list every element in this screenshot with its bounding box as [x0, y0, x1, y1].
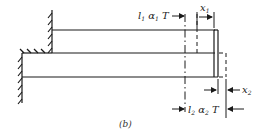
- upper-elongation-label: l1 α1 T: [138, 10, 170, 22]
- x2-label: x2: [242, 84, 252, 96]
- x1-dimension: [197, 12, 214, 28]
- lower-elongation-label: l2 α2 T: [188, 104, 220, 116]
- upper-wall-support: [48, 10, 52, 53]
- lower-free-extension-bracket: [219, 53, 226, 77]
- x1-label: x1: [200, 2, 209, 14]
- upper-bar: [52, 30, 215, 53]
- thermal-bars-diagram: l1 α1 T x1 x2 l2 α2 T (b): [0, 0, 264, 135]
- figure-caption: (b): [119, 119, 132, 129]
